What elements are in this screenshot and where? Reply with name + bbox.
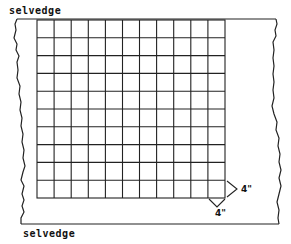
cutting-grid [37,20,225,198]
height-bracket [227,181,237,197]
square-width-label: 4" [215,209,226,218]
fabric-grid-diagram: selvedge selvedge 4" 4" [0,0,291,244]
bottom-selvedge-label: selvedge [23,229,75,239]
fabric-drawing [0,0,291,244]
square-height-label: 4" [241,185,252,194]
left-torn-edge [14,19,25,224]
dimension-brackets [209,181,237,207]
width-bracket [209,199,225,207]
top-selvedge-label: selvedge [9,6,61,16]
right-torn-edge [272,19,281,224]
